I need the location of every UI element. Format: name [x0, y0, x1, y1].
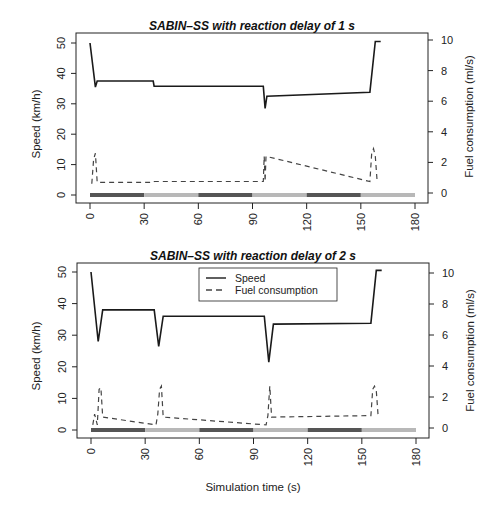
signal-segment	[91, 428, 145, 432]
y-tick-label: 40	[55, 67, 67, 79]
x-tick-label: 180	[410, 448, 422, 466]
y-axis-right: 0246810Fuel consumption (ml/s)	[428, 34, 475, 199]
chart-title: SABIN–SS with reaction delay of 2 s	[150, 249, 356, 263]
y-tick-label: 20	[55, 128, 67, 140]
x-tick-label: 30	[139, 448, 151, 460]
signal-segment	[307, 193, 361, 197]
y-axis-left: 01020304050Speed (km/h)	[30, 266, 77, 433]
signal-segment	[199, 428, 253, 432]
y2-axis-label: Fuel consumption (ml/s)	[463, 55, 475, 178]
y2-tick-label: 4	[442, 360, 448, 372]
x-axis: 0306090120150180Simulation time (s)	[85, 438, 422, 493]
y-tick-label: 30	[55, 98, 67, 110]
x-tick-label: 90	[247, 213, 259, 225]
signal-segment	[361, 193, 415, 197]
y2-tick-label: 2	[441, 156, 447, 168]
y-axis-label: Speed (km/h)	[30, 321, 42, 390]
chart-panel-1: SABIN–SS with reaction delay of 1 s01020…	[30, 19, 475, 231]
signal-bar	[90, 193, 415, 197]
x-tick-label: 60	[192, 213, 204, 225]
y-tick-label: 0	[55, 192, 67, 198]
chart-title: SABIN–SS with reaction delay of 1 s	[149, 19, 355, 33]
x-tick-label: 120	[302, 448, 314, 466]
signal-segment	[198, 193, 252, 197]
y2-tick-label: 10	[441, 34, 453, 46]
signal-segment	[144, 193, 198, 197]
signal-bar	[91, 428, 416, 432]
chart-panel-2: SABIN–SS with reaction delay of 2 s01020…	[30, 249, 476, 493]
y-tick-label: 30	[56, 329, 68, 341]
signal-segment	[362, 428, 416, 432]
x-tick-label: 60	[193, 448, 205, 460]
y-axis-label: Speed (km/h)	[30, 89, 42, 158]
fuel-consumption-line	[92, 149, 377, 184]
y2-tick-label: 6	[442, 329, 448, 341]
y-tick-label: 40	[56, 297, 68, 309]
plot-frame	[76, 33, 428, 203]
signal-segment	[145, 428, 199, 432]
y2-tick-label: 0	[442, 422, 448, 434]
y-tick-label: 50	[56, 266, 68, 278]
x-tick-label: 0	[85, 448, 97, 454]
x-tick-label: 150	[356, 448, 368, 466]
speed-line	[90, 42, 381, 109]
x-tick-label: 30	[138, 213, 150, 225]
signal-segment	[308, 428, 362, 432]
legend-label: Speed	[235, 272, 266, 284]
legend: SpeedFuel consumption	[199, 268, 337, 301]
figure: SABIN–SS with reaction delay of 1 s01020…	[0, 0, 490, 506]
y2-tick-label: 4	[441, 126, 447, 138]
y-tick-label: 50	[55, 37, 67, 49]
y2-tick-label: 6	[441, 95, 447, 107]
x-axis: 0306090120150180	[84, 203, 421, 231]
x-tick-label: 150	[355, 213, 367, 231]
signal-segment	[254, 428, 308, 432]
x-tick-label: 180	[409, 213, 421, 231]
y-axis-left: 01020304050Speed (km/h)	[30, 37, 76, 198]
x-tick-label: 0	[84, 213, 96, 219]
signal-segment	[253, 193, 307, 197]
y2-tick-label: 0	[441, 187, 447, 199]
y2-tick-label: 8	[441, 65, 447, 77]
y-axis-right: 0246810Fuel consumption (ml/s)	[429, 267, 476, 434]
x-tick-label: 90	[248, 448, 260, 460]
x-axis-label: Simulation time (s)	[205, 481, 300, 493]
y2-tick-label: 2	[442, 391, 448, 403]
signal-segment	[90, 193, 144, 197]
x-tick-label: 120	[301, 213, 313, 231]
y2-tick-label: 10	[442, 267, 454, 279]
y-tick-label: 20	[56, 361, 68, 373]
y2-tick-label: 8	[442, 298, 448, 310]
legend-label: Fuel consumption	[235, 284, 318, 296]
y-tick-label: 0	[56, 427, 68, 433]
y-tick-label: 10	[55, 158, 67, 170]
y2-axis-label: Fuel consumption (ml/s)	[464, 289, 476, 412]
fuel-consumption-line	[93, 386, 378, 425]
y-tick-label: 10	[56, 392, 68, 404]
